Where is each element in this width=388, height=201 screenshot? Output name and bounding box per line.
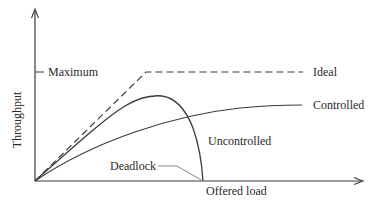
- y-axis: [32, 9, 45, 181]
- controlled-label: Controlled: [313, 98, 364, 112]
- maximum-label: Maximum: [48, 65, 99, 79]
- throughput-vs-offered-load-diagram: Throughput Maximum Ideal Controlled Unco…: [0, 0, 388, 201]
- deadlock-leader-line: [158, 166, 203, 181]
- ideal-curve: [35, 72, 303, 181]
- deadlock-label: Deadlock: [110, 159, 156, 173]
- uncontrolled-label: Uncontrolled: [208, 134, 271, 148]
- x-axis-label: Offered load: [206, 184, 267, 198]
- ideal-label: Ideal: [313, 65, 338, 79]
- y-axis-label: Throughput: [10, 91, 24, 148]
